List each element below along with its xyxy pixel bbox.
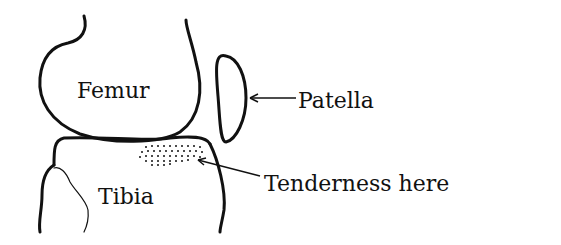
patella-outline: [216, 55, 246, 142]
tibia-right-edge: [210, 144, 224, 232]
knee-diagram: Femur Tibia Patella Tenderness here: [0, 0, 561, 245]
patella-label: Patella: [298, 88, 374, 113]
tenderness-area: [139, 145, 203, 166]
tibia-label: Tibia: [98, 184, 154, 209]
femur-label: Femur: [77, 78, 150, 103]
tibia-left-edge: [39, 165, 54, 232]
tenderness-label: Tenderness here: [264, 171, 449, 196]
tenderness-leader-line: [198, 160, 260, 176]
fibula-outline: [54, 168, 88, 232]
